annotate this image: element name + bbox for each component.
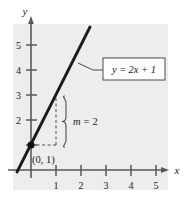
y-tick-label-2: 2 xyxy=(16,115,21,126)
point-label: (0, 1) xyxy=(32,154,55,166)
equation-rhs: 2x + 1 xyxy=(129,64,157,75)
x-tick-label-1: 1 xyxy=(54,180,59,191)
slope-equals: = xyxy=(84,116,90,127)
graph-canvas: y x 5 4 3 2 1 2 3 4 5 xyxy=(0,0,187,202)
x-axis-label: x xyxy=(174,164,180,176)
x-tick-label-3: 3 xyxy=(104,180,109,191)
x-tick-label-4: 4 xyxy=(129,180,134,191)
slope-value: 2 xyxy=(93,116,98,127)
slope-symbol: m xyxy=(73,116,81,127)
slope-annotation: m=2 xyxy=(73,116,98,127)
equation-lhs: y xyxy=(111,64,117,75)
y-tick-label-3: 3 xyxy=(16,90,21,101)
x-tick-label-2: 2 xyxy=(79,180,84,191)
y-axis-label: y xyxy=(22,5,28,17)
equation-equals: = xyxy=(120,64,126,75)
point-marker-0-1 xyxy=(27,141,34,148)
y-tick-label-5: 5 xyxy=(16,40,21,51)
y-tick-label-4: 4 xyxy=(16,65,21,76)
linear-equation-figure: y x 5 4 3 2 1 2 3 4 5 xyxy=(0,0,187,202)
x-tick-label-5: 5 xyxy=(154,180,159,191)
plot-panel xyxy=(13,24,168,190)
